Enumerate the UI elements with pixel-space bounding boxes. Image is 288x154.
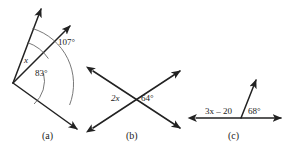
label-c-right-angle: 68° <box>248 107 261 116</box>
panel-b-lines <box>93 71 180 128</box>
caption-panel-b: (b) <box>126 131 138 141</box>
caption-panel-a: (a) <box>42 131 53 141</box>
label-a-outer-angle: 107° <box>58 38 75 47</box>
geometry-figure: x 83° 107° (a) 2x 64° (b) 3x – 20 68° (c… <box>0 0 288 154</box>
label-a-inner-angle: 83° <box>35 69 48 78</box>
label-a-variable-x: x <box>24 56 28 65</box>
label-b-left-angle: 2x <box>111 94 120 103</box>
label-b-right-angle: 64° <box>141 94 154 103</box>
caption-panel-c: (c) <box>228 131 239 141</box>
ray-a-lower-right <box>13 83 77 129</box>
label-c-left-angle: 3x – 20 <box>205 107 232 116</box>
